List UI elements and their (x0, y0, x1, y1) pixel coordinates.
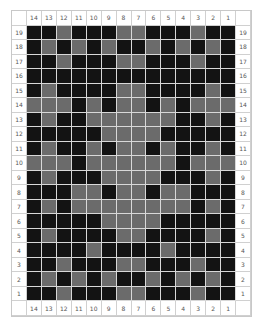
grey-stitch-cell (161, 113, 176, 128)
grey-stitch-cell (146, 113, 161, 128)
dark-stitch-cell (27, 40, 42, 55)
dark-stitch-cell (146, 55, 161, 70)
dark-stitch-cell (27, 200, 42, 215)
grey-stitch-cell (102, 171, 117, 186)
row-label-left: 1 (12, 287, 27, 302)
grey-stitch-cell (132, 171, 147, 186)
row-label-right: 16 (236, 69, 251, 84)
dark-stitch-cell (206, 26, 221, 41)
grey-stitch-cell (176, 200, 191, 215)
grey-stitch-cell (117, 200, 132, 215)
dark-stitch-cell (146, 243, 161, 258)
grey-stitch-cell (146, 214, 161, 229)
grey-stitch-cell (206, 200, 221, 215)
grey-stitch-cell (117, 55, 132, 70)
grey-stitch-cell (57, 98, 72, 113)
row-label-left: 13 (12, 113, 27, 128)
dark-stitch-cell (146, 258, 161, 273)
row-label-left: 10 (12, 156, 27, 171)
grey-stitch-cell (117, 258, 132, 273)
row-label-right: 12 (236, 127, 251, 142)
dark-stitch-cell (191, 185, 206, 200)
grey-stitch-cell (146, 40, 161, 55)
grey-stitch-cell (206, 40, 221, 55)
dark-stitch-cell (87, 26, 102, 41)
dark-stitch-cell (221, 26, 236, 41)
dark-stitch-cell (206, 69, 221, 84)
dark-stitch-cell (132, 243, 147, 258)
row-label-right: 19 (236, 26, 251, 41)
column-label: 8 (117, 11, 132, 26)
corner-blank (236, 301, 251, 316)
grey-stitch-cell (221, 156, 236, 171)
grey-stitch-cell (191, 26, 206, 41)
grey-stitch-cell (132, 26, 147, 41)
column-label: 9 (102, 11, 117, 26)
grey-stitch-cell (206, 272, 221, 287)
grey-stitch-cell (161, 185, 176, 200)
dark-stitch-cell (27, 185, 42, 200)
grey-stitch-cell (161, 243, 176, 258)
dark-stitch-cell (161, 214, 176, 229)
dark-stitch-cell (27, 69, 42, 84)
dark-stitch-cell (87, 55, 102, 70)
row-label-left: 6 (12, 214, 27, 229)
column-label: 6 (146, 301, 161, 316)
row-label-right: 15 (236, 84, 251, 99)
grey-stitch-cell (57, 287, 72, 302)
dark-stitch-cell (191, 214, 206, 229)
grey-stitch-cell (42, 200, 57, 215)
column-label: 9 (102, 301, 117, 316)
grey-stitch-cell (132, 127, 147, 142)
dark-stitch-cell (176, 229, 191, 244)
dark-stitch-cell (72, 84, 87, 99)
dark-stitch-cell (206, 258, 221, 273)
dark-stitch-cell (206, 55, 221, 70)
dark-stitch-cell (57, 171, 72, 186)
column-label: 5 (161, 301, 176, 316)
corner-blank (12, 11, 27, 26)
dark-stitch-cell (132, 69, 147, 84)
dark-stitch-cell (132, 272, 147, 287)
dark-stitch-cell (221, 229, 236, 244)
dark-stitch-cell (191, 142, 206, 157)
dark-stitch-cell (161, 229, 176, 244)
grey-stitch-cell (102, 40, 117, 55)
dark-stitch-cell (146, 229, 161, 244)
dark-stitch-cell (206, 185, 221, 200)
dark-stitch-cell (191, 243, 206, 258)
grey-stitch-cell (117, 98, 132, 113)
dark-stitch-cell (221, 84, 236, 99)
dark-stitch-cell (102, 98, 117, 113)
dark-stitch-cell (57, 229, 72, 244)
grey-stitch-cell (206, 142, 221, 157)
grey-stitch-cell (117, 127, 132, 142)
dark-stitch-cell (87, 229, 102, 244)
dark-stitch-cell (176, 142, 191, 157)
dark-stitch-cell (117, 243, 132, 258)
dark-stitch-cell (221, 171, 236, 186)
dark-stitch-cell (72, 171, 87, 186)
grey-stitch-cell (191, 55, 206, 70)
grey-stitch-cell (206, 113, 221, 128)
grey-stitch-cell (87, 243, 102, 258)
dark-stitch-cell (87, 84, 102, 99)
column-label: 1 (221, 11, 236, 26)
grey-stitch-cell (42, 98, 57, 113)
dark-stitch-cell (57, 185, 72, 200)
dark-stitch-cell (206, 127, 221, 142)
dark-stitch-cell (102, 84, 117, 99)
grey-stitch-cell (102, 156, 117, 171)
grey-stitch-cell (146, 272, 161, 287)
grey-stitch-cell (27, 156, 42, 171)
grey-stitch-cell (117, 26, 132, 41)
dark-stitch-cell (176, 69, 191, 84)
grey-stitch-cell (191, 98, 206, 113)
row-label-left: 4 (12, 243, 27, 258)
grey-stitch-cell (57, 156, 72, 171)
dark-stitch-cell (27, 272, 42, 287)
dark-stitch-cell (87, 40, 102, 55)
column-label: 6 (146, 11, 161, 26)
row-label-right: 11 (236, 142, 251, 157)
grey-stitch-cell (161, 200, 176, 215)
